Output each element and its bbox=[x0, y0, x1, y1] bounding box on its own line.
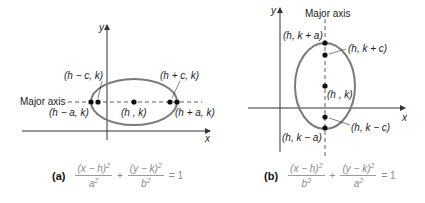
fraction-y-term-b: (y − k)2 a2 bbox=[340, 162, 376, 190]
panel-tag-b: (b) bbox=[264, 170, 278, 182]
equation-a: (a) (x − h)2 a2 + (y − k)2 b2 = 1 bbox=[52, 162, 186, 190]
panel-tag-a: (a) bbox=[52, 170, 65, 182]
label-vertex-bottom: (h, k − a) bbox=[282, 132, 322, 143]
exponent: 2 bbox=[319, 162, 323, 169]
x-axis-label-b: x bbox=[401, 112, 408, 123]
numerator: (y − k) bbox=[130, 163, 158, 174]
equals-one: = 1 bbox=[381, 170, 395, 181]
numerator: (x − h) bbox=[77, 163, 106, 174]
y-axis-label-a: y bbox=[98, 22, 105, 33]
label-vertex-right: (h + a, k) bbox=[175, 107, 215, 118]
vertex-bottom-point bbox=[322, 125, 327, 130]
focus-right-point bbox=[167, 99, 172, 104]
focus-bottom-point bbox=[322, 114, 327, 119]
focus-top-point bbox=[322, 52, 327, 57]
major-axis-label-b: Major axis bbox=[305, 8, 351, 19]
label-focus-left: (h − c, k) bbox=[64, 70, 103, 81]
fraction-y-term-a: (y − k)2 b2 bbox=[128, 162, 164, 190]
exponent: 2 bbox=[95, 177, 99, 184]
major-axis-label-a: Major axis bbox=[20, 96, 66, 107]
center-point-b bbox=[322, 83, 327, 88]
panel-b: y x Major axis (h, k + a) (h, k + c) (h … bbox=[248, 5, 408, 156]
equation-b: (b) (x − h)2 b2 + (y − k)2 a2 = 1 bbox=[264, 162, 399, 190]
vertex-left-point bbox=[88, 99, 93, 104]
vertex-right-point bbox=[174, 99, 179, 104]
equals-one: = 1 bbox=[169, 170, 183, 181]
label-vertex-left: (h − a, k) bbox=[49, 107, 89, 118]
label-focus-top: (h, k + c) bbox=[348, 43, 387, 54]
exponent: 2 bbox=[106, 162, 110, 169]
x-axis-label-a: x bbox=[204, 133, 211, 144]
fraction-x-term-b: (x − h)2 b2 bbox=[288, 162, 325, 190]
label-focus-right: (h + c, k) bbox=[160, 70, 199, 81]
exponent: 2 bbox=[147, 177, 151, 184]
plus-sign: + bbox=[117, 170, 123, 181]
focus-left-point bbox=[95, 99, 100, 104]
numerator: (y − k) bbox=[342, 163, 370, 174]
fraction-x-term-a: (x − h)2 a2 bbox=[75, 162, 112, 190]
numerator: (x − h) bbox=[290, 163, 319, 174]
label-center-b: (h , k) bbox=[327, 89, 353, 100]
exponent: 2 bbox=[359, 177, 363, 184]
label-center-a: (h , k) bbox=[121, 107, 147, 118]
center-point-a bbox=[131, 99, 136, 104]
label-vertex-top: (h, k + a) bbox=[283, 30, 323, 41]
panel-a: y x Major axis (h − c, k) (h + c, k) (h … bbox=[20, 22, 215, 144]
label-focus-bottom: (h, k − c) bbox=[351, 122, 390, 133]
plus-sign: + bbox=[330, 170, 336, 181]
exponent: 2 bbox=[370, 162, 374, 169]
exponent: 2 bbox=[307, 177, 311, 184]
vertex-top-point bbox=[322, 40, 327, 45]
y-axis-label-b: y bbox=[270, 5, 277, 16]
exponent: 2 bbox=[158, 162, 162, 169]
